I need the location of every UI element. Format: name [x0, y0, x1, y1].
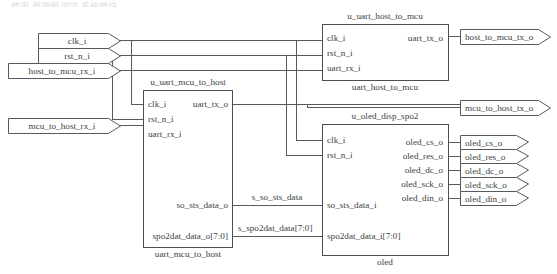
port-label-rst-n-i: rst_n_i [64, 52, 90, 61]
pin-label-oled-cs-o: oled_cs_o [406, 138, 443, 147]
block-instance-label-u-uart-host-to-mcu: u_uart_host_to_mcu [347, 12, 423, 21]
pin-label-oled-clk-i: clk_i [327, 136, 345, 145]
port-label-oled-sck-o: oled_sck_o [465, 181, 507, 190]
port-label-oled-din-o: oled_din_o [465, 195, 506, 204]
block-type-label-uart-host-to-mcu: uart_host_to_mcu [352, 83, 418, 92]
schematic-canvas: — 使用 原理图 浏览 系统模块 [0, 0, 557, 274]
port-label-oled-cs-o: oled_cs_o [465, 139, 502, 148]
pin-label-mcuhost-uart-rx-i: uart_rx_i [148, 130, 182, 139]
net-label-s-spo2dat-data: s_spo2dat_data[7:0] [238, 224, 313, 233]
pin-label-mcuhost-spo2dat-data-o: spo2dat_data_o[7:0] [152, 232, 228, 241]
pin-label-mcuhost-so-sts-data-o: so_sts_data_o [176, 201, 228, 210]
pin-label-oled-dc-o: oled_dc_o [405, 166, 443, 175]
wire-mcuhost-tx-out-seg [232, 104, 460, 108]
pin-label-hostmcu-rst-n-i: rst_n_i [327, 49, 353, 58]
pin-label-hostmcu-uart-rx-i: uart_rx_i [327, 64, 361, 73]
port-label-host-to-mcu-tx-o: host_to_mcu_tx_o [465, 33, 533, 42]
pin-label-oled-spo2dat-data-i: spo2dat_data_i[7:0] [327, 232, 400, 241]
block-type-label-oled: oled [377, 258, 393, 267]
pin-label-mcuhost-rst-n-i: rst_n_i [148, 115, 174, 124]
port-label-mcu-to-host-rx-i: mcu_to_host_rx_i [29, 122, 96, 131]
pin-label-hostmcu-clk-i: clk_i [327, 34, 345, 43]
wire-rstn-to-mcu-to-host [112, 56, 143, 120]
port-label-host-to-mcu-rx-i: host_to_mcu_rx_i [29, 67, 96, 76]
port-label-clk-i: clk_i [68, 37, 86, 46]
pin-label-oled-res-o: oled_res_o [403, 152, 443, 161]
block-type-label-uart-mcu-to-host: uart_mcu_to_host [155, 250, 221, 259]
pin-label-oled-din-o: oled_din_o [402, 194, 443, 203]
pin-label-mcuhost-clk-i: clk_i [148, 100, 166, 109]
pin-label-mcuhost-uart-tx-o: uart_tx_o [193, 100, 228, 109]
pin-label-hostmcu-uart-tx-o: uart_tx_o [408, 34, 443, 43]
pin-label-oled-sck-o: oled_sck_o [401, 180, 443, 189]
block-instance-label-u-oled-disp-spo2: u_oled_disp_spo2 [352, 112, 419, 121]
block-instance-label-u-uart-mcu-to-host: u_uart_mcu_to_host [150, 78, 226, 87]
pin-label-oled-so-sts-data-i: so_sts_data_i [327, 201, 377, 210]
port-label-mcu-to-host-tx-o: mcu_to_host_tx_o [465, 104, 533, 113]
net-label-s-so-sts-data: s_so_sts_data [252, 193, 303, 202]
port-label-oled-res-o: oled_res_o [465, 153, 505, 162]
wire-mcuhost-tx-out [232, 104, 460, 108]
pin-label-oled-rst-n-i: rst_n_i [327, 151, 353, 160]
port-label-oled-dc-o: oled_dc_o [465, 167, 503, 176]
wire-clk-to-mcu-to-host [131, 41, 143, 105]
